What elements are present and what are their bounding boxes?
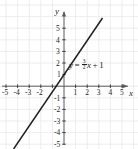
equation-constant: 1	[99, 61, 104, 70]
y-tick-label-1: 1	[57, 71, 61, 79]
x-tick-label-2: 2	[85, 89, 89, 97]
y-tick-label-neg5: -5	[54, 141, 60, 149]
x-tick-label-1: 1	[74, 89, 78, 97]
x-tick-label-5: 5	[120, 89, 124, 97]
y-tick-label-neg1: -1	[54, 95, 60, 103]
x-tick-label-neg5: -5	[2, 89, 8, 97]
y-tick-label-neg4: -4	[54, 129, 60, 137]
y-tick-label-neg2: -2	[54, 106, 60, 114]
x-tick-label-neg3: -3	[25, 89, 31, 97]
plotted-line	[0, 0, 138, 149]
y-tick-label-4: 4	[56, 37, 60, 45]
x-tick-label-4: 4	[108, 89, 112, 97]
equation-fraction: 3 2	[82, 59, 87, 71]
fraction-numerator: 3	[82, 59, 86, 65]
equation-annotation: y = 3 2 x + 1	[69, 59, 104, 71]
y-tick-label-neg3: -3	[54, 118, 60, 126]
x-tick-label-neg2: -2	[37, 89, 43, 97]
y-axis-label: y	[55, 7, 59, 16]
y-tick-label-2: 2	[56, 60, 60, 68]
equation-equals: =	[73, 61, 81, 70]
x-tick-label-3: 3	[97, 89, 101, 97]
y-tick-label-5: 5	[56, 25, 60, 33]
y-tick-label-3: 3	[56, 48, 60, 56]
equation-plus: +	[91, 61, 99, 70]
x-tick-label-neg4: -4	[14, 89, 20, 97]
graph-figure: -5 -4 -3 -2 1 2 3 4 5 5 4 3 2 1 -1 -2 -3…	[0, 0, 138, 149]
fraction-denominator: 2	[82, 65, 86, 71]
x-axis-label: x	[129, 89, 133, 98]
